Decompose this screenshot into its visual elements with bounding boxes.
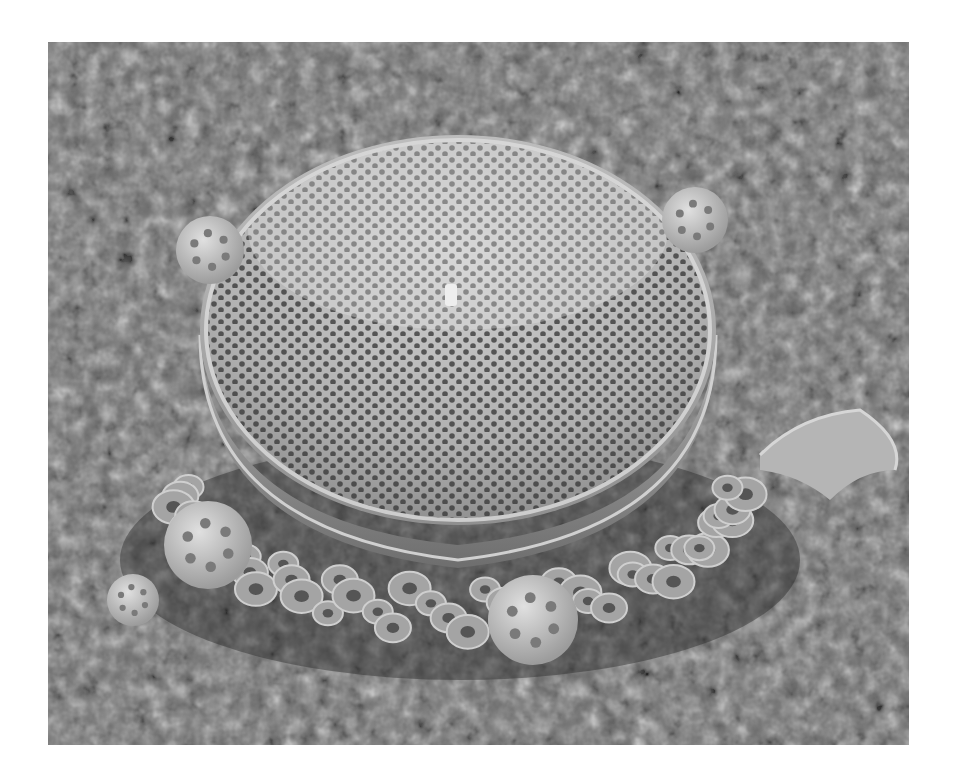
coccosphere	[662, 187, 728, 253]
diatom-frustule	[200, 130, 720, 568]
coccosphere	[164, 501, 252, 589]
sem-micrograph	[48, 42, 909, 745]
central-process	[445, 284, 457, 306]
coccosphere	[488, 575, 578, 665]
coccosphere	[107, 574, 159, 626]
coccosphere	[176, 216, 244, 284]
